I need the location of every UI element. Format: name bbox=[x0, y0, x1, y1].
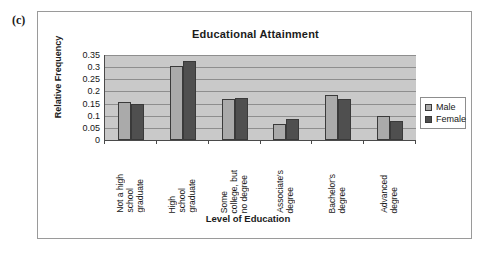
x-tick bbox=[156, 140, 157, 144]
bar-male bbox=[170, 66, 183, 140]
x-category-label-line: degree bbox=[389, 187, 399, 213]
legend-item-male[interactable]: Male bbox=[425, 103, 461, 112]
x-category-label: Bachelor'sdegree bbox=[311, 145, 363, 213]
x-category-label-line: school bbox=[177, 188, 187, 213]
legend-label: Female bbox=[436, 115, 466, 124]
panel-label: (c) bbox=[12, 13, 25, 28]
plot-area bbox=[104, 55, 416, 141]
y-tick-label: 0.25 bbox=[66, 75, 100, 84]
x-category-label-line: Bachelor's bbox=[327, 174, 337, 213]
chart-frame: Educational Attainment Relative Frequenc… bbox=[37, 11, 472, 239]
y-tick-label: 0.2 bbox=[66, 87, 100, 96]
y-tick-label: 0.15 bbox=[66, 99, 100, 108]
x-category-label-line: Not a high bbox=[115, 174, 125, 213]
x-category-label-inner: Advanceddegree bbox=[379, 145, 399, 213]
x-category-label: Not a highschoolgraduate bbox=[104, 145, 156, 213]
x-tick bbox=[363, 140, 364, 144]
bar-group bbox=[105, 55, 157, 140]
y-tick-label: 0.35 bbox=[66, 51, 100, 60]
x-axis-category-labels: Not a highschoolgraduateHighschoolgradua… bbox=[104, 145, 415, 213]
x-category-label-line: graduate bbox=[187, 179, 197, 213]
x-category-label-line: school bbox=[125, 188, 135, 213]
x-category-label: Highschoolgraduate bbox=[156, 145, 208, 213]
x-category-label-line: Associate's bbox=[275, 170, 285, 213]
x-tick bbox=[104, 140, 105, 144]
bar-female bbox=[131, 104, 144, 140]
x-category-label-inner: Bachelor'sdegree bbox=[327, 145, 347, 213]
bar-group bbox=[261, 55, 313, 140]
legend-swatch-icon bbox=[425, 104, 432, 111]
x-tick bbox=[415, 140, 416, 144]
x-category-label-line: High bbox=[167, 196, 177, 213]
x-category-label-line: degree bbox=[285, 187, 295, 213]
x-category-label-line: Advanced bbox=[379, 175, 389, 213]
legend-swatch-icon bbox=[425, 116, 432, 123]
legend-item-female[interactable]: Female bbox=[425, 115, 461, 124]
x-axis-ticks bbox=[104, 140, 416, 144]
bar-female bbox=[183, 61, 196, 140]
x-category-label: Advanceddegree bbox=[363, 145, 415, 213]
x-category-label-line: degree bbox=[337, 187, 347, 213]
x-category-label-inner: Associate'sdegree bbox=[275, 145, 295, 213]
bar-female bbox=[390, 121, 403, 140]
y-tick-label: 0.1 bbox=[66, 111, 100, 120]
x-axis-title: Level of Education bbox=[78, 213, 418, 224]
x-category-label-line: no degree bbox=[239, 175, 249, 213]
x-category-label: Associate'sdegree bbox=[260, 145, 312, 213]
bars-layer bbox=[105, 55, 416, 140]
bar-group bbox=[364, 55, 416, 140]
legend: MaleFemale bbox=[420, 97, 466, 129]
legend-label: Male bbox=[436, 103, 456, 112]
bar-female bbox=[338, 99, 351, 140]
x-category-label-line: Some bbox=[219, 191, 229, 213]
figure-root: (c) Educational Attainment Relative Freq… bbox=[0, 0, 481, 257]
bar-male bbox=[118, 102, 131, 140]
bar-male bbox=[325, 95, 338, 140]
bar-female bbox=[286, 119, 299, 140]
chart-title: Educational Attainment bbox=[38, 28, 473, 40]
bar-group bbox=[312, 55, 364, 140]
bar-male bbox=[222, 99, 235, 140]
x-category-label-inner: Somecollege, butno degree bbox=[219, 145, 249, 213]
x-tick bbox=[260, 140, 261, 144]
y-tick-label: 0.3 bbox=[66, 63, 100, 72]
x-category-label-line: graduate bbox=[135, 179, 145, 213]
y-tick-label: 0 bbox=[66, 136, 100, 145]
y-axis-tick-labels: 0.350.30.250.20.150.10.050 bbox=[66, 55, 100, 140]
x-tick bbox=[208, 140, 209, 144]
bar-male bbox=[273, 124, 286, 140]
bar-male bbox=[377, 116, 390, 140]
x-category-label-line: college, but bbox=[229, 170, 239, 213]
bar-group bbox=[157, 55, 209, 140]
x-category-label-inner: Highschoolgraduate bbox=[167, 145, 197, 213]
y-tick-label: 0.05 bbox=[66, 123, 100, 132]
x-category-label: Somecollege, butno degree bbox=[208, 145, 260, 213]
bar-group bbox=[209, 55, 261, 140]
x-category-label-inner: Not a highschoolgraduate bbox=[115, 145, 145, 213]
x-tick bbox=[311, 140, 312, 144]
y-axis-title: Relative Frequency bbox=[53, 29, 63, 125]
bar-female bbox=[235, 98, 248, 140]
